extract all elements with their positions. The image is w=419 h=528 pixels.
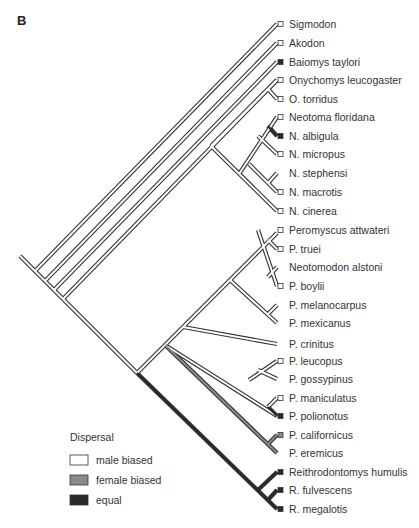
tip-markers	[278, 22, 283, 512]
tip-marker-female-biased	[278, 433, 283, 438]
branch-male-biased	[165, 345, 277, 416]
dispersal-legend: Dispersal male biasedfemale biasedequal	[70, 431, 162, 506]
tip-marker-male-biased	[278, 152, 283, 157]
branch-female-biased	[165, 345, 277, 453]
taxon-label: Sigmodon	[289, 18, 336, 30]
tip-marker-male-biased	[278, 247, 283, 252]
taxon-label: P. eremicus	[289, 447, 343, 459]
taxon-label: P. truei	[289, 243, 321, 255]
taxon-label: P. melanocarpus	[289, 299, 366, 311]
tip-marker-equal	[278, 60, 283, 65]
branch-male-biased	[211, 80, 277, 146]
taxon-label: P. gossypinus	[289, 373, 353, 385]
branch-male-biased	[20, 256, 137, 373]
tip-marker-equal	[278, 414, 283, 419]
branch-male-biased	[268, 398, 277, 407]
tip-marker-male-biased	[278, 115, 283, 120]
taxon-label: N. macrotis	[289, 186, 342, 198]
branch-equal	[268, 490, 277, 500]
tip-marker-male-biased	[278, 396, 283, 401]
tree-branches	[20, 24, 277, 509]
tip-labels: SigmodonAkodonBaiomys tayloriOnychomys l…	[289, 18, 407, 515]
tip-marker-male-biased	[278, 97, 283, 102]
tip-marker-male-biased	[278, 41, 283, 46]
branch-equal	[258, 472, 277, 490]
taxon-label: Reithrodontomys humulis	[289, 466, 407, 478]
legend-swatch-male-biased	[70, 455, 88, 465]
taxon-label: Peromyscus attwateri	[289, 224, 389, 236]
branch-male-biased	[268, 305, 277, 314]
branch-male-biased	[211, 146, 277, 211]
tip-marker-male-biased	[278, 284, 283, 289]
taxon-label: N. micropus	[289, 148, 345, 160]
tip-marker-male-biased	[278, 22, 283, 27]
legend-swatch-equal	[70, 495, 88, 505]
taxon-label: R. megalotis	[289, 503, 347, 515]
branch-male-biased	[268, 89, 277, 99]
taxon-label: P. polionotus	[289, 410, 348, 422]
taxon-label: P. mexicanus	[289, 317, 351, 329]
branch-male-biased	[258, 370, 277, 379]
tip-marker-male-biased	[278, 78, 283, 83]
tip-marker-male-biased	[278, 209, 283, 214]
phylogenetic-tree: SigmodonAkodonBaiomys tayloriOnychomys l…	[0, 0, 419, 528]
taxon-label: R. fulvescens	[289, 484, 352, 496]
legend-label: male biased	[96, 454, 153, 466]
tip-marker-equal	[278, 507, 283, 512]
taxon-label: P. crinitus	[289, 338, 334, 350]
taxon-label: N. cinerea	[289, 205, 337, 217]
taxon-label: Baiomys taylori	[289, 56, 360, 68]
branch-male-biased	[230, 280, 277, 323]
tip-marker-equal	[278, 488, 283, 493]
legend-title: Dispersal	[70, 431, 114, 443]
tip-marker-equal	[278, 470, 283, 475]
taxon-label: Neotoma floridana	[289, 111, 375, 123]
taxon-label: N. albigula	[289, 130, 339, 142]
tip-marker-male-biased	[278, 228, 283, 233]
branch-male-biased	[239, 117, 277, 174]
branch-male-biased	[35, 24, 277, 271]
branch-male-biased	[268, 173, 277, 183]
tip-marker-male-biased	[278, 190, 283, 195]
legend-label: female biased	[96, 474, 162, 486]
taxon-label: P. maniculatus	[289, 392, 357, 404]
taxon-label: P. leucopus	[289, 355, 343, 367]
taxon-label: N. stephensi	[289, 167, 347, 179]
taxon-label: P. californicus	[289, 429, 353, 441]
tip-marker-equal	[278, 134, 283, 139]
branch-male-biased	[183, 327, 277, 344]
branch-male-biased	[45, 43, 277, 281]
branch-equal	[137, 373, 277, 509]
taxon-label: Akodon	[289, 37, 325, 49]
taxon-label: P. boylii	[289, 280, 324, 292]
branch-male-biased	[268, 240, 277, 249]
branch-female-biased	[268, 435, 277, 444]
taxon-label: Neotomodon alstoni	[289, 261, 382, 273]
legend-label: equal	[96, 494, 122, 506]
taxon-label: O. torridus	[289, 93, 338, 105]
taxon-label: Onychomys leucogaster	[289, 74, 402, 86]
legend-swatch-female-biased	[70, 475, 88, 485]
tip-marker-male-biased	[278, 359, 283, 364]
